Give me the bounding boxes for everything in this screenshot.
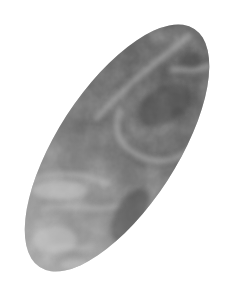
specimen-ellipse <box>0 0 232 298</box>
image-canvas <box>0 0 232 298</box>
